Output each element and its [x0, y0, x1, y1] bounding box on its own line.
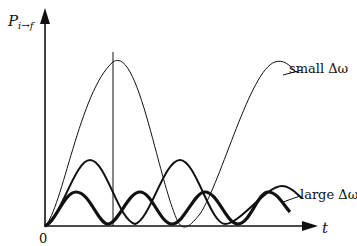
curve-large-delta-omega	[45, 192, 290, 226]
y-axis-arrow	[40, 8, 50, 24]
small-delta-omega-label: small Δω	[289, 61, 348, 76]
x-axis-label: t	[322, 219, 329, 237]
x-axis-arrow	[302, 221, 318, 231]
origin-label: 0	[39, 231, 47, 246]
large-delta-omega-leader	[283, 196, 300, 202]
y-axis-label: Pi→f	[7, 12, 36, 31]
large-delta-omega-label: large Δω	[300, 187, 357, 202]
transition-probability-chart: Pi→f t 0 small Δω large Δω	[0, 0, 357, 246]
